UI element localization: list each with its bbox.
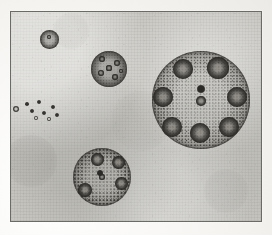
figure-frame	[10, 11, 262, 222]
illustration-plate: Volvox colonies microscope plate	[0, 0, 272, 235]
colony-rim	[73, 148, 131, 206]
colony-middle-colony	[91, 51, 127, 87]
colony-rim	[152, 51, 250, 149]
colony-rim	[40, 30, 59, 49]
free-cell	[25, 102, 29, 106]
colony-top-small-sphere	[40, 30, 59, 49]
colony-rim	[91, 51, 127, 87]
colony-large-colony	[152, 51, 250, 149]
colony-bottom-colony	[73, 148, 131, 206]
